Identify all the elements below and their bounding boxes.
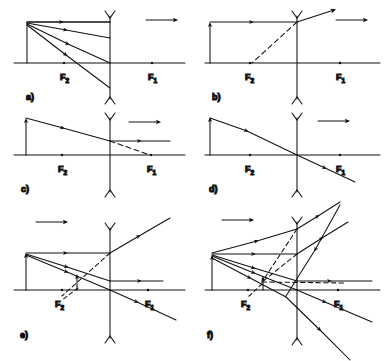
panel-f (205, 202, 380, 360)
focal-point-f2-e (61, 289, 63, 291)
ray-f-parallel-refracted (297, 222, 348, 254)
panel-label-d: d) (209, 184, 218, 194)
panel-d (205, 113, 380, 197)
panel-label-c: c) (21, 184, 29, 194)
panel-b (205, 10, 380, 104)
focal-label-f1-d: F1 (336, 164, 346, 176)
focal-point-f2-b (249, 62, 251, 64)
ray-f-lower (212, 258, 286, 297)
focal-point-f1-d (339, 154, 341, 156)
focal-label-f2-c: F2 (58, 164, 68, 176)
focal-point-f1-b (339, 62, 341, 64)
ray-e-central (26, 255, 110, 290)
panel-label-f: f) (207, 330, 213, 340)
focal-label-f2-d: F2 (245, 164, 255, 176)
ray-e-toward-f1 (26, 254, 110, 281)
ray-b-refracted (297, 10, 334, 22)
focal-label-f2-a: F2 (60, 72, 70, 84)
optics-ray-diagram-figure: F2 F1 a) F2 F1 b) (0, 0, 391, 361)
ray-d-emergent (297, 155, 355, 182)
panel-a (14, 11, 185, 104)
lens-symbol-a (105, 11, 115, 104)
focal-point-f2-d (249, 154, 251, 156)
focal-point-f1-c (150, 154, 152, 156)
focal-label-f1-e: F1 (145, 299, 155, 311)
focal-point-f1-a (151, 62, 153, 64)
ray-f-central (212, 256, 297, 290)
ray-f-upper-refracted (297, 202, 340, 229)
focal-label-f1-c: F1 (147, 164, 157, 176)
ray-f-toward-f1 (212, 255, 297, 281)
ray-f-dashed-3 (262, 282, 345, 283)
ray-f-dashed-1 (262, 229, 297, 282)
focal-label-f1-b: F1 (336, 72, 346, 84)
panel-label-a: a) (26, 92, 34, 102)
focal-label-f2-e: F2 (55, 299, 65, 311)
lens-symbol-e (105, 223, 115, 343)
focal-point-f2-c (61, 154, 63, 156)
ray-b-virtual-dashed (252, 22, 297, 63)
focal-point-f2-f (247, 289, 249, 291)
focal-label-f2-b: F2 (245, 72, 255, 84)
panel-c (14, 113, 185, 197)
ray-d-incident (210, 118, 297, 155)
ray-e-central-out (110, 290, 176, 320)
focal-label-f1-f: F1 (334, 299, 344, 311)
panel-label-e: e) (20, 330, 28, 340)
focal-point-f2-a (63, 62, 65, 64)
ray-c-incident (26, 118, 110, 141)
ray-c-dashed (110, 141, 150, 155)
ray-e-refracted-up (110, 218, 170, 253)
panel-e (14, 218, 185, 343)
focal-point-f1-e (147, 289, 149, 291)
ray-f-upper-incident (212, 229, 297, 253)
focal-point-f1-f (337, 289, 339, 291)
focal-label-f1-a: F1 (148, 72, 158, 84)
panel-label-b: b) (212, 92, 221, 102)
focal-label-f2-f: F2 (241, 299, 251, 311)
